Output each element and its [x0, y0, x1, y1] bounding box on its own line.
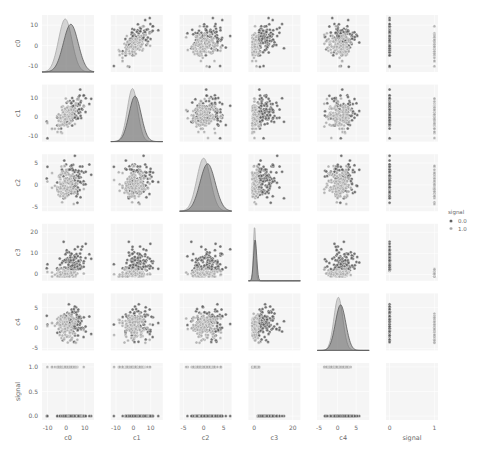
- y-tick-label: 5: [34, 304, 38, 311]
- x-tick-label: -10: [43, 424, 53, 431]
- x-tick-label: 0: [64, 424, 68, 431]
- x-axis-label-c3: c3: [271, 434, 279, 442]
- y-axis-label-c3: c3: [14, 248, 22, 256]
- subplot-c4-vs-c1: [111, 293, 163, 350]
- subplot-c4-vs-signal: [386, 293, 438, 350]
- subplot-c3-vs-signal: [386, 224, 438, 281]
- x-tick-label: 1: [432, 424, 436, 431]
- y-axis-label-c1: c1: [14, 109, 22, 117]
- subplot-c3-vs-c2: [180, 224, 232, 281]
- y-tick-label: 20: [30, 228, 38, 235]
- pairplot-figure: -10010c0-10010c1-505c201020c3-505c40.00.…: [0, 0, 490, 461]
- subplot-c2-vs-signal: [386, 154, 438, 211]
- y-tick-label: -5: [32, 203, 38, 210]
- subplot-c0-vs-c4: [317, 15, 369, 72]
- subplot-c0-vs-c1: [111, 15, 163, 72]
- y-tick-label: 10: [30, 94, 38, 101]
- legend: signal0.01.0: [448, 209, 467, 232]
- subplot-c4-vs-c4: [317, 293, 369, 350]
- subplot-c1-vs-signal: [386, 85, 438, 142]
- y-tick-label: 0: [34, 42, 38, 49]
- y-tick-label: -5: [32, 344, 38, 351]
- y-tick-label: 10: [30, 21, 38, 28]
- subplot-c2-vs-c4: [317, 154, 369, 211]
- y-tick-label: 0: [34, 181, 38, 188]
- x-tick-label: 0: [336, 424, 340, 431]
- pairplot-svg: -10010c0-10010c1-505c201020c3-505c40.00.…: [0, 0, 490, 461]
- subplot-c3-vs-c4: [317, 224, 369, 281]
- subplot-signal-vs-c4: [317, 363, 369, 420]
- x-tick-label: 20: [289, 424, 297, 431]
- y-tick-label: 5: [34, 159, 38, 166]
- x-tick-label: 0: [388, 424, 392, 431]
- subplot-signal-vs-c3: [248, 363, 300, 420]
- x-tick-label: 0: [202, 424, 206, 431]
- subplot-c3-vs-c3: [248, 224, 300, 281]
- x-tick-label: 0: [252, 424, 256, 431]
- x-tick-label: 10: [81, 424, 89, 431]
- subplot-c1-vs-c2: [180, 85, 232, 142]
- y-tick-label: 10: [30, 249, 38, 256]
- subplot-c1-vs-c0: [42, 85, 94, 142]
- legend-marker-0.0: [449, 219, 452, 222]
- x-tick-label: 0: [131, 424, 135, 431]
- subplot-c0-vs-c0: [42, 15, 94, 72]
- y-tick-label: -10: [28, 132, 38, 139]
- subplot-signal-vs-c0: [42, 363, 94, 420]
- x-axis-label-c2: c2: [202, 434, 210, 442]
- subplot-c2-vs-c0: [42, 154, 94, 211]
- subplot-signal-vs-c2: [180, 363, 232, 420]
- y-axis-label-c2: c2: [14, 179, 22, 187]
- subplot-c3-vs-c1: [111, 224, 163, 281]
- y-tick-label: 0: [34, 270, 38, 277]
- x-tick-label: -10: [111, 424, 121, 431]
- legend-title: signal: [448, 209, 465, 216]
- x-tick-label: 5: [354, 424, 358, 431]
- y-tick-label: -10: [28, 62, 38, 69]
- subplot-signal-vs-signal: [386, 363, 438, 420]
- subplot-c0-vs-signal: [386, 15, 438, 72]
- subplot-c2-vs-c1: [111, 154, 163, 211]
- x-tick-label: 5: [222, 424, 226, 431]
- subplot-c0-vs-c2: [180, 15, 232, 72]
- subplot-c1-vs-c4: [317, 85, 369, 142]
- subplot-c0-vs-c3: [248, 15, 300, 72]
- subplot-c4-vs-c2: [180, 293, 232, 350]
- subplot-c3-vs-c0: [42, 224, 94, 281]
- y-axis-label-c4: c4: [14, 318, 22, 326]
- y-tick-label: 0: [34, 113, 38, 120]
- x-tick-label: -5: [181, 424, 187, 431]
- subplot-c2-vs-c2: [180, 154, 232, 211]
- y-tick-label: 0.5: [28, 388, 38, 395]
- legend-label-1.0: 1.0: [458, 226, 467, 232]
- subplot-c4-vs-c3: [248, 293, 300, 350]
- legend-marker-1.0: [449, 227, 452, 230]
- y-axis-label-signal: signal: [14, 382, 22, 401]
- subplot-c1-vs-c1: [111, 85, 163, 142]
- x-axis-label-signal: signal: [402, 434, 421, 442]
- x-axis-label-c1: c1: [133, 434, 141, 442]
- y-tick-label: 0: [34, 324, 38, 331]
- subplot-c2-vs-c3: [248, 154, 300, 211]
- legend-label-0.0: 0.0: [458, 218, 467, 224]
- x-tick-label: 10: [147, 424, 155, 431]
- subplot-c4-vs-c0: [42, 293, 94, 350]
- y-axis-label-c0: c0: [14, 40, 22, 48]
- x-axis-label-c4: c4: [339, 434, 347, 442]
- subplot-c1-vs-c3: [248, 85, 300, 142]
- y-tick-label: 1.0: [28, 363, 38, 370]
- subplot-signal-vs-c1: [111, 363, 163, 420]
- y-tick-label: 0.0: [28, 412, 38, 419]
- x-axis-label-c0: c0: [64, 434, 72, 442]
- x-tick-label: -5: [316, 424, 322, 431]
